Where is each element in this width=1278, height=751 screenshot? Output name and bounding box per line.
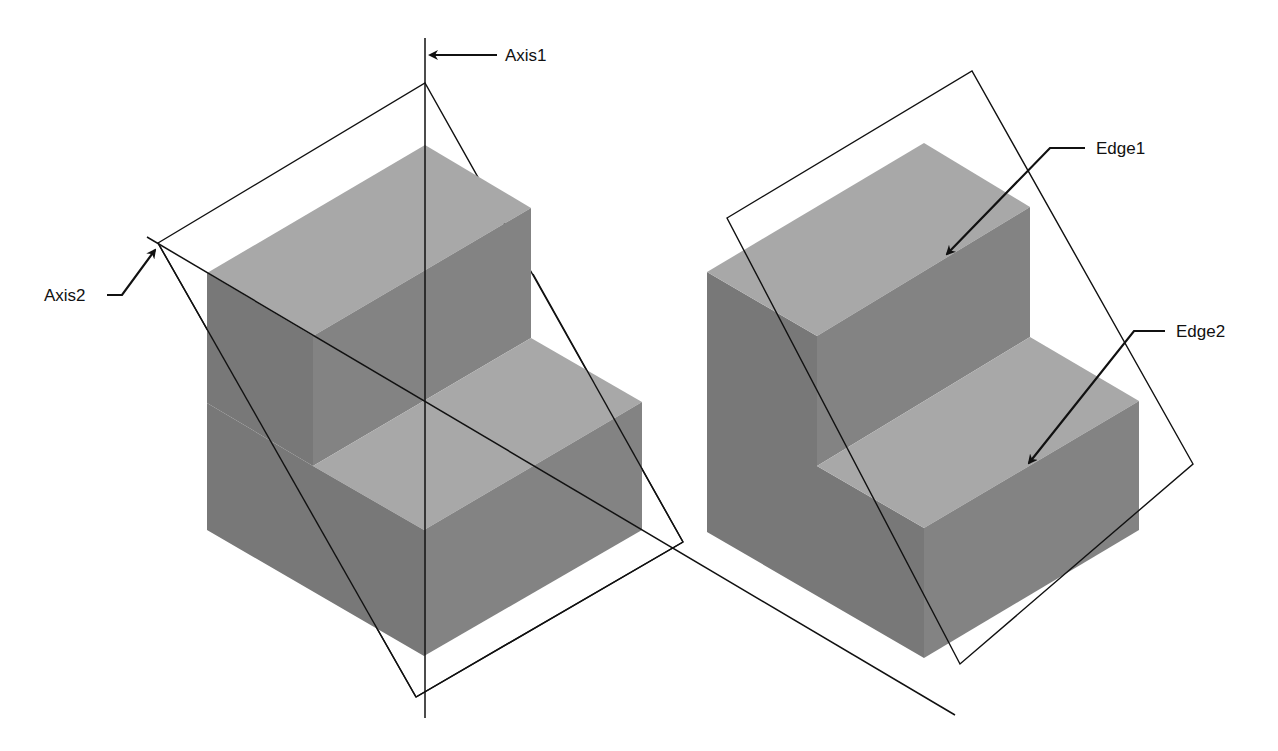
edge1-label: Edge1 [1096, 139, 1145, 158]
diagram-canvas: Axis1 Axis2 Edge1 Edge2 [0, 0, 1278, 751]
edge2-label: Edge2 [1176, 322, 1225, 341]
axis2-label: Axis2 [44, 286, 86, 305]
axis2-leader-arrow [107, 250, 155, 295]
right-view: Edge1 Edge2 [707, 71, 1225, 664]
axis1-label: Axis1 [505, 46, 547, 65]
right-step-block [707, 143, 1139, 658]
